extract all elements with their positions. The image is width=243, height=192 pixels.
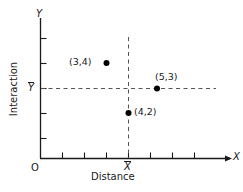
data-point-label-4-2: (4,2) [134,107,157,117]
x-axis-arrowhead [225,156,232,162]
data-point-3-4 [104,60,110,66]
y-mean-label-text: Y [28,82,34,93]
data-point-4-2 [126,110,132,116]
x-axis-title: Distance [91,172,135,182]
scatter-plot-figure: Y X O X Y (3,4) (5,3) (4,2) Interaction … [0,0,243,192]
origin-label: O [31,163,39,173]
data-point-5-3 [154,86,160,92]
x-axis-letter: X [233,152,240,162]
y-axis-letter: Y [36,9,42,19]
data-point-label-5-3: (5,3) [155,72,178,82]
y-mean-label: Y [28,82,34,93]
y-axis-title: Interaction [9,54,19,124]
data-point-label-3-4: (3,4) [69,57,92,67]
